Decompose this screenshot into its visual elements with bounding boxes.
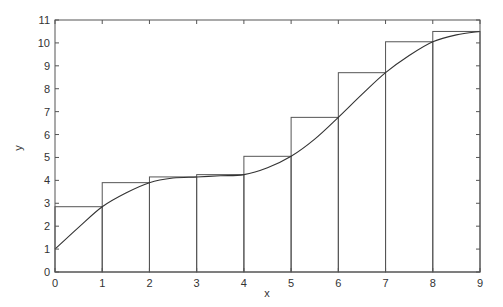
y-tick-label: 1 bbox=[44, 243, 50, 255]
x-tick-label: 8 bbox=[430, 277, 436, 289]
y-tick-label: 2 bbox=[44, 220, 50, 232]
x-tick-label: 7 bbox=[382, 277, 388, 289]
x-tick-label: 5 bbox=[288, 277, 294, 289]
x-tick-label: 4 bbox=[241, 277, 247, 289]
y-tick-label: 4 bbox=[44, 174, 50, 186]
y-tick-label: 9 bbox=[44, 60, 50, 72]
y-tick-label: 6 bbox=[44, 129, 50, 141]
bar bbox=[338, 73, 385, 272]
bars bbox=[55, 31, 480, 272]
y-tick-label: 3 bbox=[44, 197, 50, 209]
bar bbox=[386, 42, 433, 272]
y-tick-label: 7 bbox=[44, 106, 50, 118]
x-tick-label: 9 bbox=[477, 277, 483, 289]
bar bbox=[55, 207, 102, 272]
x-tick-label: 2 bbox=[146, 277, 152, 289]
chart: 0123456789 01234567891011 x y bbox=[0, 0, 503, 307]
y-tick-label: 5 bbox=[44, 151, 50, 163]
bar bbox=[102, 183, 149, 272]
curve-line bbox=[55, 31, 480, 249]
y-axis-ticks: 01234567891011 bbox=[38, 14, 480, 278]
x-axis-ticks: 0123456789 bbox=[52, 20, 483, 289]
y-axis-label: y bbox=[12, 145, 24, 151]
bar bbox=[197, 175, 244, 272]
axes-frame bbox=[55, 20, 480, 272]
x-axis-label: x bbox=[264, 287, 270, 299]
y-tick-label: 8 bbox=[44, 83, 50, 95]
bar bbox=[149, 177, 196, 272]
y-tick-label: 0 bbox=[44, 266, 50, 278]
bar bbox=[291, 117, 338, 272]
bar bbox=[433, 31, 480, 272]
x-tick-label: 3 bbox=[194, 277, 200, 289]
x-tick-label: 6 bbox=[335, 277, 341, 289]
x-tick-label: 0 bbox=[52, 277, 58, 289]
x-tick-label: 1 bbox=[99, 277, 105, 289]
y-tick-label: 11 bbox=[39, 14, 50, 26]
y-tick-label: 10 bbox=[38, 37, 50, 49]
